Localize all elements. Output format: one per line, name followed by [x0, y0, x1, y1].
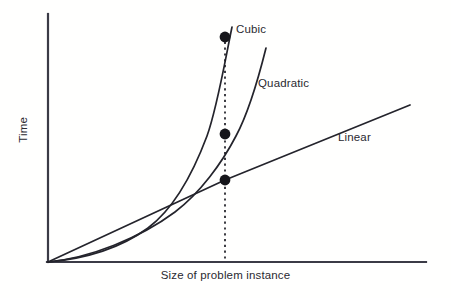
series-label-linear: Linear [338, 132, 371, 144]
data-point-cubic [220, 32, 231, 43]
y-axis-label: Time [18, 102, 30, 158]
x-axis-label: Size of problem instance [0, 270, 451, 282]
series-label-quadratic: Quadratic [258, 78, 309, 90]
cubic-series-curve [48, 27, 232, 262]
complexity-growth-chart: Cubic Quadratic Linear Size of problem i… [0, 0, 451, 298]
data-point-quadratic [220, 129, 231, 140]
quadratic-series-curve [48, 48, 266, 262]
series-label-cubic: Cubic [236, 24, 266, 36]
data-point-linear [220, 175, 231, 186]
plot-canvas [0, 0, 451, 298]
